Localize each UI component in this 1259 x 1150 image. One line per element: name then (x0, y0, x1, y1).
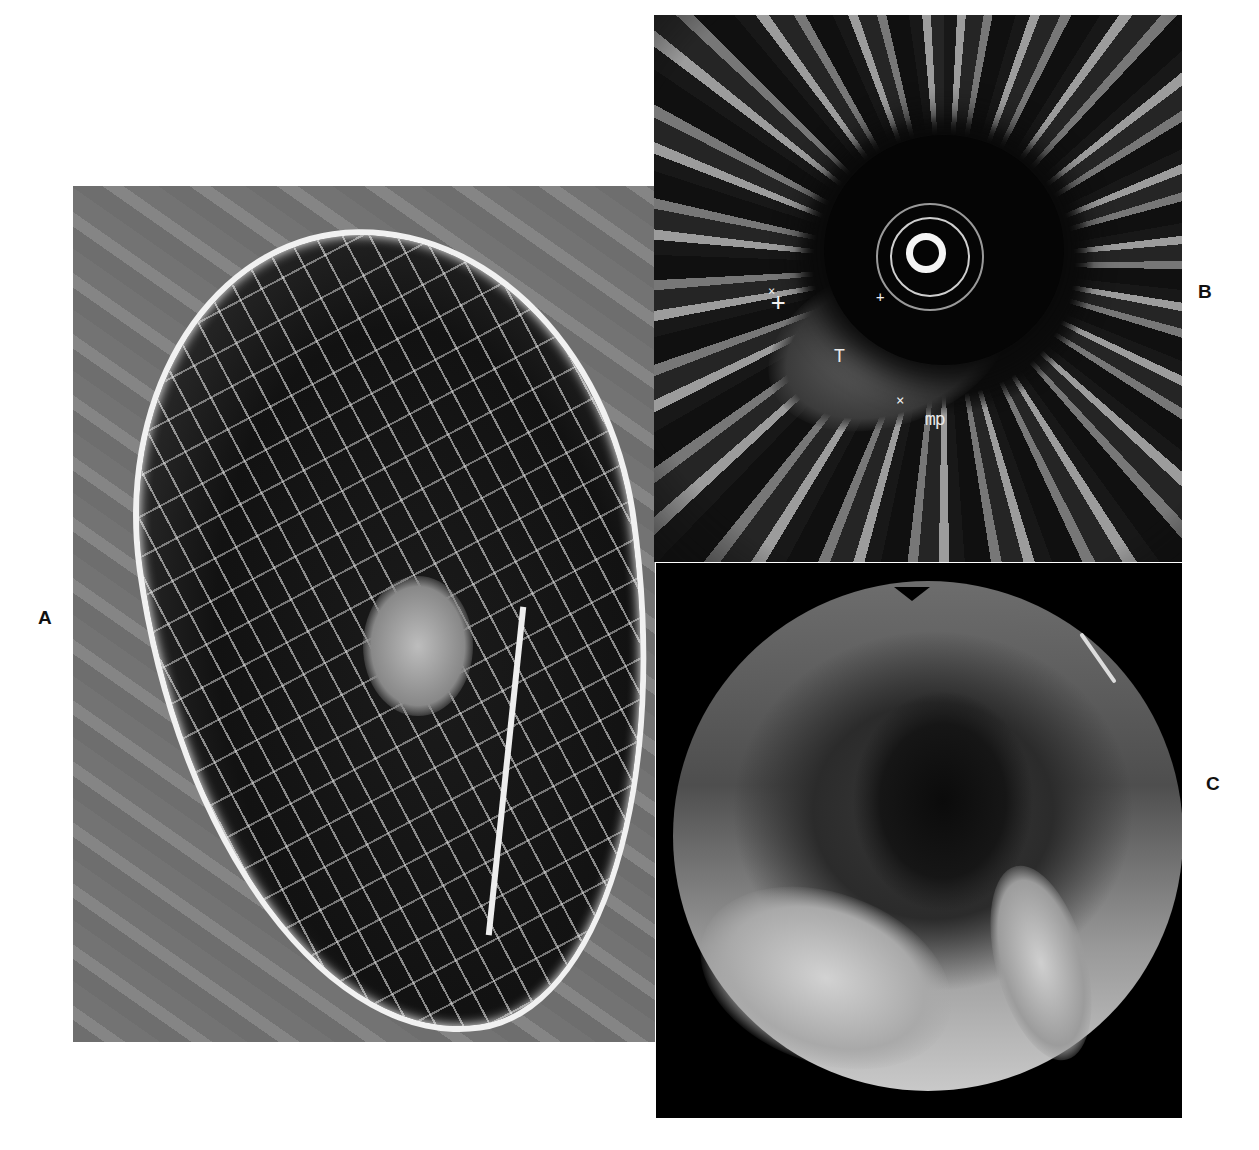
caliper-x-marker: × (896, 393, 904, 407)
panel-b-ultrasound: + + × × T mp (654, 15, 1182, 562)
tumor-label: T (834, 345, 844, 366)
scope-notch (894, 587, 930, 601)
caliper-x-marker: × (768, 285, 775, 297)
panel-a-radiograph (73, 186, 655, 1042)
panel-c-endoscopy (656, 563, 1182, 1118)
panel-label-c: C (1206, 773, 1220, 795)
caliper-plus-marker: + (876, 290, 884, 304)
mp-label: mp (925, 408, 945, 429)
probe-ring-inner (906, 233, 946, 273)
panel-label-a: A (38, 607, 52, 629)
mass-shadow (363, 576, 473, 716)
panel-label-b: B (1198, 281, 1212, 303)
